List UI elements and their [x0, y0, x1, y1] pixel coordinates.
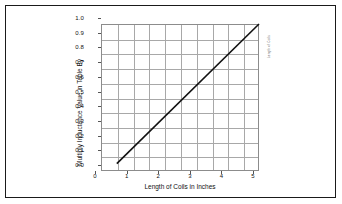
- y-axis-tick-label: 0.8: [62, 44, 84, 50]
- chart-outer-frame: Length of Coils in Inches Multiply Induc…: [5, 5, 336, 198]
- y-axis-tick-label: 0.9: [62, 30, 84, 36]
- y-axis-tick-mark: [98, 106, 101, 107]
- y-axis-tick-mark: [98, 77, 101, 78]
- y-axis-tick-mark: [98, 150, 101, 151]
- y-axis-tick-label: 0.6: [62, 74, 84, 80]
- y-axis-tick-mark: [98, 62, 101, 63]
- y-axis-tick-mark: [98, 92, 101, 93]
- y-axis-tick-label: 0.2: [62, 133, 84, 139]
- y-axis-tick-label: 0.3: [62, 118, 84, 124]
- x-axis-tick-mark: [253, 171, 254, 174]
- y-axis-tick-mark: [98, 47, 101, 48]
- x-axis-tick-mark: [158, 171, 159, 174]
- y-axis-tick-label: 0.5: [62, 89, 84, 95]
- y-axis-tick-mark: [98, 18, 101, 19]
- data-series-line: [101, 24, 259, 171]
- y-axis-tick-mark: [98, 165, 101, 166]
- y-axis-tick-mark: [98, 136, 101, 137]
- y-axis-tick-label: 0.4: [62, 103, 84, 109]
- y-axis-tick-label: 0.7: [62, 59, 84, 65]
- chart-screenshot: Length of Coils in Inches Multiply Induc…: [0, 0, 342, 204]
- x-axis-tick-mark: [127, 171, 128, 174]
- x-axis-tick-mark: [95, 171, 96, 174]
- x-axis-title: Length of Coils in Inches: [101, 183, 259, 190]
- y-axis-tick-label: 0.0: [62, 162, 84, 168]
- series-line: [117, 24, 259, 164]
- y-axis-tick-mark: [98, 121, 101, 122]
- y-axis-tick-label: 0.1: [62, 147, 84, 153]
- side-note-annotation: Length of Coils: [267, 35, 271, 58]
- y-axis-tick-label: 1.0: [62, 15, 84, 21]
- y-axis-tick-mark: [98, 33, 101, 34]
- x-axis-tick-mark: [190, 171, 191, 174]
- x-axis-tick-mark: [221, 171, 222, 174]
